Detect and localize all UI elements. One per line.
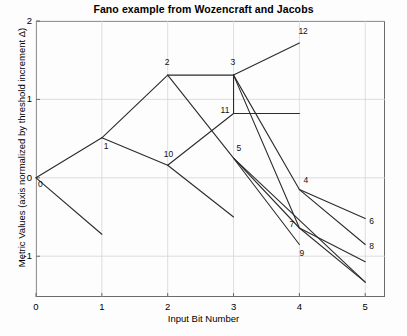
series-line xyxy=(299,228,365,262)
node-label-9: 9 xyxy=(299,248,304,258)
series-line xyxy=(234,43,300,75)
series-line xyxy=(168,114,234,166)
y-axis-label: Metric Values (axis normalized by thresh… xyxy=(16,3,27,293)
node-label-4: 4 xyxy=(303,175,308,185)
x-tick-label: 2 xyxy=(156,301,180,312)
x-tick-label: 5 xyxy=(353,301,377,312)
node-label-6: 6 xyxy=(369,216,374,226)
x-axis-label: Input Bit Number xyxy=(0,313,407,324)
x-tick-label: 1 xyxy=(90,301,114,312)
series-line xyxy=(36,138,102,178)
chart-canvas xyxy=(0,0,407,336)
node-label-10: 10 xyxy=(164,149,173,159)
node-label-7: 7 xyxy=(289,219,294,229)
series-line xyxy=(234,75,300,189)
series-line xyxy=(234,75,300,228)
series-lines xyxy=(36,43,365,282)
node-label-3: 3 xyxy=(231,57,236,67)
chart-figure: Fano example from Wozencraft and Jacobs … xyxy=(0,0,407,336)
node-label-2: 2 xyxy=(165,57,170,67)
node-label-11: 11 xyxy=(221,105,230,115)
x-tick-label: 0 xyxy=(24,301,48,312)
node-label-0: 0 xyxy=(38,179,43,189)
axis-ticks xyxy=(36,21,365,297)
series-line xyxy=(36,178,102,234)
series-line xyxy=(299,190,365,219)
x-tick-label: 3 xyxy=(222,301,246,312)
x-tick-label: 4 xyxy=(287,301,311,312)
series-line xyxy=(234,158,300,244)
series-line xyxy=(102,138,168,165)
node-label-1: 1 xyxy=(104,141,109,151)
series-line xyxy=(168,75,366,282)
series-line xyxy=(168,165,234,217)
node-label-5: 5 xyxy=(237,143,242,153)
node-label-12: 12 xyxy=(298,26,307,36)
series-line xyxy=(102,75,168,138)
node-label-8: 8 xyxy=(369,241,374,251)
